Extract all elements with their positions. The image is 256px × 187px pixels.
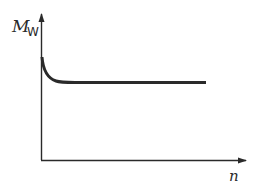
y-axis-subscript: W	[27, 25, 39, 39]
mw-curve	[42, 57, 206, 83]
x-axis-label: n	[229, 167, 239, 185]
diagram-canvas: M W n	[0, 0, 256, 187]
